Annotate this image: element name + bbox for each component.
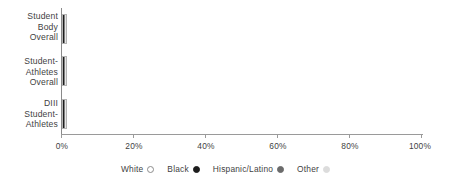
legend-item-white: White [121,164,154,174]
x-tick-label-20: 20% [125,141,142,151]
legend-item-hispanic-latino: Hispanic/Latino [213,164,284,174]
bar-row-1 [62,56,67,86]
chart-legend: White Black Hispanic/Latino Other [0,164,451,174]
filled-circle-light-icon [323,166,330,173]
bar-row-2 [62,99,67,129]
category-label-diii-student-athletes: DIII Student- Athletes [0,98,58,130]
x-axis-line [61,134,423,135]
x-tick-label-80: 80% [341,141,358,151]
stacked-bar-chart: Student Body Overall Student- Athletes O… [0,0,451,184]
x-tick-20 [133,134,134,138]
legend-label-other: Other [297,164,319,174]
legend-item-black: Black [167,164,199,174]
filled-circle-dark-icon [193,166,200,173]
x-tick-label-0: 0% [56,141,69,151]
bar-row-0 [62,14,67,44]
x-tick-80 [349,134,350,138]
x-tick-0 [61,134,62,138]
category-label-student-athletes-overall: Student- Athletes Overall [0,56,58,88]
x-tick-label-40: 40% [197,141,214,151]
x-tick-40 [205,134,206,138]
legend-label-white: White [121,164,143,174]
filled-circle-gray-icon [277,166,284,173]
open-circle-icon [147,166,154,173]
x-tick-label-100: 100% [409,141,431,151]
plot-area: 0% 20% 40% 60% 80% 100% [62,8,422,134]
legend-label-black: Black [167,164,188,174]
x-tick-60 [277,134,278,138]
bar-segment-other [65,57,66,85]
legend-item-other: Other [297,164,330,174]
x-tick-100 [421,134,422,138]
category-axis-labels: Student Body Overall Student- Athletes O… [0,0,58,134]
bar-segment-other [65,15,66,43]
category-label-student-body-overall: Student Body Overall [0,11,58,43]
x-tick-label-60: 60% [269,141,286,151]
legend-label-hispanic-latino: Hispanic/Latino [213,164,273,174]
bar-segment-other [65,100,66,128]
